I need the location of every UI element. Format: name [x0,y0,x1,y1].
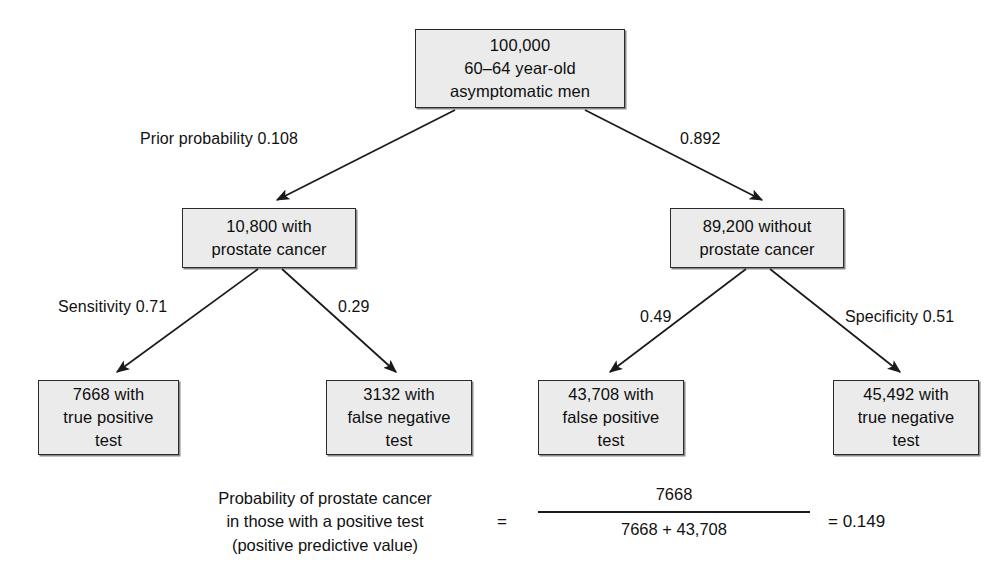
node-false-negative[interactable]: 3132 with false negative test [326,380,472,455]
formula-description-line-2: in those with a positive test [170,510,480,533]
node-true-positive-line-2: true positive [63,406,153,429]
node-root-line-2: 60–64 year-old [464,57,575,80]
node-true-negative-line-1: 45,492 with [863,383,949,406]
formula-fraction-bar [538,511,810,513]
formula-denominator: 7668 + 43,708 [538,520,810,539]
diagram-canvas: 100,000 60–64 year-old asymptomatic men … [0,0,993,585]
node-true-positive-line-3: test [95,429,122,452]
node-true-negative[interactable]: 45,492 with true negative test [833,380,979,455]
node-false-negative-line-3: test [386,429,413,452]
node-false-positive-line-3: test [598,429,625,452]
node-true-positive[interactable]: 7668 with true positive test [38,380,179,455]
node-no-cancer-line-2: prostate cancer [699,238,814,261]
node-no-cancer-line-1: 89,200 without [703,215,812,238]
formula-equals-sign: = [497,512,507,532]
node-false-positive-line-2: false positive [563,406,660,429]
edge-label-specificity: Specificity 0.51 [845,308,954,326]
edge-label-prior-probability: Prior probability 0.108 [140,130,298,148]
formula-fraction: 7668 7668 + 43,708 [538,485,810,539]
node-false-negative-line-1: 3132 with [363,383,435,406]
edge-label-complement-prior: 0.892 [680,130,721,148]
node-root[interactable]: 100,000 60–64 year-old asymptomatic men [415,29,625,108]
node-false-negative-line-2: false negative [347,406,450,429]
node-true-negative-line-3: test [893,429,920,452]
edge-label-sensitivity: Sensitivity 0.71 [58,298,167,316]
node-false-positive[interactable]: 43,708 with false positive test [538,380,684,455]
formula-description-line-1: Probability of prostate cancer [170,487,480,510]
node-with-prostate-cancer[interactable]: 10,800 with prostate cancer [182,208,356,268]
edge-no-cancer-to-false-positive [610,269,746,372]
formula-numerator: 7668 [538,485,810,504]
edge-label-false-positive-rate: 0.49 [640,308,672,326]
edge-label-false-negative-rate: 0.29 [338,298,370,316]
edge-root-to-no-cancer [585,110,762,200]
edge-root-to-cancer [277,110,455,200]
node-without-prostate-cancer[interactable]: 89,200 without prostate cancer [670,208,844,268]
node-true-positive-line-1: 7668 with [73,383,145,406]
edge-cancer-to-false-negative [282,269,396,372]
node-root-line-1: 100,000 [490,34,550,57]
formula-result: = 0.149 [828,512,885,532]
node-true-negative-line-2: true negative [858,406,955,429]
formula-description-line-3: (positive predictive value) [170,534,480,557]
edge-cancer-to-true-positive [117,269,258,372]
node-cancer-line-1: 10,800 with [226,215,312,238]
node-cancer-line-2: prostate cancer [211,238,326,261]
formula-description: Probability of prostate cancer in those … [170,487,480,557]
node-false-positive-line-1: 43,708 with [568,383,654,406]
node-root-line-3: asymptomatic men [450,80,590,103]
